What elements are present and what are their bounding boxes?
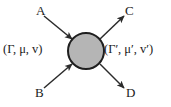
- leg-line-C: [100, 16, 124, 39]
- outgoing-channel-label: (Γ′, μ′, v′): [104, 43, 153, 56]
- leg-label-b: B: [35, 86, 44, 99]
- leg-line-A: [44, 16, 72, 39]
- diagram-canvas: A C B D (Γ, μ, v) (Γ′, μ′, v′): [0, 0, 171, 107]
- incoming-channel-label: (Γ, μ, v): [3, 43, 43, 56]
- leg-label-d: D: [126, 86, 135, 99]
- leg-line-D: [100, 64, 124, 88]
- leg-label-c: C: [125, 4, 134, 17]
- leg-label-a: A: [36, 4, 45, 17]
- leg-line-B: [44, 64, 72, 88]
- interaction-blob: [68, 33, 104, 69]
